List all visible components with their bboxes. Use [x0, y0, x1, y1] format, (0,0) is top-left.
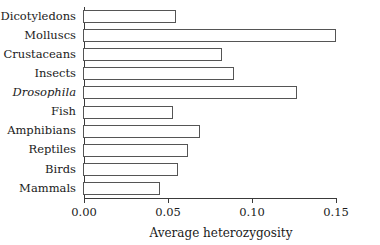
y-axis-label-birds: Birds	[0, 160, 80, 179]
bar-dicotyledons	[83, 10, 176, 23]
y-axis-label-text: Drosophila	[13, 87, 76, 99]
x-tick-label: 0.15	[323, 205, 349, 219]
y-axis-label-text: Insects	[34, 68, 76, 80]
bar-reptiles	[83, 144, 188, 157]
bar-row	[84, 26, 336, 45]
y-axis-label-text: Amphibians	[7, 125, 76, 137]
x-axis-title-text: Average heterozygosity	[88, 226, 293, 240]
y-axis-label-fish: Fish	[0, 102, 80, 121]
bar-mammals	[83, 182, 160, 195]
bar-insects	[83, 67, 234, 80]
x-axis-tick-marks	[84, 198, 336, 204]
y-axis-label-reptiles: Reptiles	[0, 141, 80, 160]
bar-row	[84, 160, 336, 179]
bar-row	[84, 179, 336, 198]
y-axis-label-text: Birds	[45, 164, 76, 176]
y-axis-label-insects: Insects	[0, 64, 80, 83]
x-tick-mark	[168, 198, 169, 203]
bar-crustaceans	[83, 48, 222, 61]
bar-row	[84, 122, 336, 141]
y-axis-label-crustaceans: Crustaceans	[0, 45, 80, 64]
bar-row	[84, 45, 336, 64]
y-axis-label-dicotyledons: Dicotyledons	[0, 7, 80, 26]
y-axis-label-text: Fish	[51, 106, 76, 118]
bars-layer	[84, 7, 336, 198]
bar-molluscs	[83, 29, 336, 42]
bar-row	[84, 102, 336, 121]
y-axis-label-amphibians: Amphibians	[0, 122, 80, 141]
bar-row	[84, 83, 336, 102]
y-axis-label-text: Mammals	[19, 183, 76, 195]
x-tick-mark	[252, 198, 253, 203]
y-axis-label-drosophila: Drosophila	[0, 83, 80, 102]
x-tick-mark	[336, 198, 337, 203]
x-tick-label: 0.10	[239, 205, 265, 219]
bar-row	[84, 64, 336, 83]
y-axis-label-text: Molluscs	[24, 30, 76, 42]
bar-fish	[83, 106, 173, 119]
y-axis-label-text: Crustaceans	[4, 49, 77, 61]
x-tick-label: 0.00	[71, 205, 97, 219]
y-axis-category-labels: DicotyledonsMolluscsCrustaceansInsectsDr…	[0, 7, 80, 198]
bar-drosophila	[83, 86, 297, 99]
bar-amphibians	[83, 125, 200, 138]
y-axis-label-text: Reptiles	[28, 144, 76, 156]
bar-birds	[83, 163, 178, 176]
x-tick-mark	[84, 198, 85, 203]
bar-row	[84, 141, 336, 160]
x-axis-tick-labels: 0.000.050.100.15	[0, 205, 380, 221]
y-axis-label-molluscs: Molluscs	[0, 26, 80, 45]
y-axis-label-text: Dicotyledons	[1, 11, 76, 23]
plot-area: DicotyledonsMolluscsCrustaceansInsectsDr…	[0, 0, 380, 245]
x-tick-label: 0.05	[155, 205, 181, 219]
chart-figure: DicotyledonsMolluscsCrustaceansInsectsDr…	[0, 0, 380, 245]
y-axis-label-mammals: Mammals	[0, 179, 80, 198]
x-axis-title: Average heterozygosity	[0, 226, 380, 240]
bar-row	[84, 7, 336, 26]
